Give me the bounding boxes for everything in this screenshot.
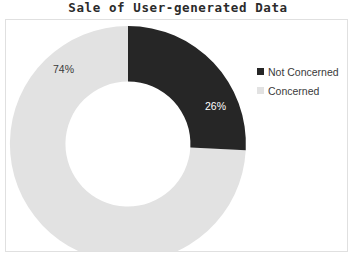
slice-not-concerned[interactable] bbox=[128, 26, 246, 150]
legend: Not Concerned Concerned bbox=[257, 62, 348, 100]
donut-chart: Sale of User-generated Data 74% 26% Not … bbox=[0, 0, 356, 260]
donut-slices bbox=[10, 26, 246, 252]
legend-swatch-not-concerned bbox=[257, 68, 264, 75]
legend-label-not-concerned: Not Concerned bbox=[268, 66, 339, 78]
legend-label-concerned: Concerned bbox=[268, 85, 319, 97]
data-label-not-concerned: 26% bbox=[205, 100, 226, 112]
legend-item-not-concerned[interactable]: Not Concerned bbox=[257, 62, 348, 81]
data-label-concerned: 74% bbox=[53, 63, 74, 75]
chart-title: Sale of User-generated Data bbox=[0, 0, 356, 16]
plot-area: 74% 26% Not Concerned Concerned bbox=[5, 19, 348, 252]
donut-svg bbox=[6, 20, 348, 252]
donut-graphic: 74% 26% bbox=[6, 20, 348, 252]
legend-swatch-concerned bbox=[257, 87, 264, 94]
legend-item-concerned[interactable]: Concerned bbox=[257, 81, 348, 100]
